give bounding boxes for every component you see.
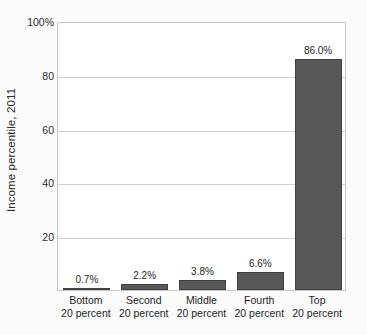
x-axis-label: Bottom20 percent: [57, 294, 115, 320]
x-axis-label: Second20 percent: [115, 294, 173, 320]
x-axis-label-line1: Middle: [186, 294, 217, 306]
y-tick-label-20: 20: [20, 232, 54, 243]
bar-group: 86.0%: [295, 59, 342, 290]
y-tick-label-100: 100%: [20, 17, 54, 28]
x-axis-label-line2: 20 percent: [230, 307, 288, 320]
x-axis-label-line1: Fourth: [244, 294, 274, 306]
x-axis-label: Fourth20 percent: [230, 294, 288, 320]
y-axis-tick-labels: 20406080100%: [18, 0, 54, 335]
x-axis-label-line2: 20 percent: [288, 307, 346, 320]
x-axis-label-line2: 20 percent: [173, 307, 231, 320]
y-tick-label-40: 40: [20, 178, 54, 189]
bar-value-label: 86.0%: [283, 46, 354, 56]
bar-group: 6.6%: [237, 272, 284, 290]
bar-series: 0.7%2.2%3.8%6.6%86.0%: [58, 23, 345, 290]
bar-chart-figure: Income percentile, 2011 20406080100% 0.7…: [0, 0, 367, 335]
x-axis-label: Top20 percent: [288, 294, 346, 320]
x-axis-label: Middle20 percent: [173, 294, 231, 320]
y-tick-label-80: 80: [20, 71, 54, 82]
bar[interactable]: [237, 272, 284, 290]
y-tick-label-60: 60: [20, 124, 54, 135]
x-axis-category-labels: Bottom20 percentSecond20 percentMiddle20…: [57, 294, 346, 334]
bar[interactable]: [179, 280, 226, 290]
bar[interactable]: [121, 284, 168, 290]
x-axis-label-line2: 20 percent: [57, 307, 115, 320]
x-axis-label-line1: Top: [309, 294, 326, 306]
bar[interactable]: [63, 288, 110, 290]
plot-area: 0.7%2.2%3.8%6.6%86.0%: [57, 22, 346, 291]
bar[interactable]: [295, 59, 342, 290]
bar-group: 2.2%: [121, 284, 168, 290]
x-axis-label-line1: Bottom: [69, 294, 102, 306]
bar-group: 3.8%: [179, 280, 226, 290]
x-axis-label-line1: Second: [126, 294, 162, 306]
bar-group: 0.7%: [63, 288, 110, 290]
x-axis-label-line2: 20 percent: [115, 307, 173, 320]
bar-value-label: 6.6%: [225, 259, 296, 269]
y-axis-title-text: Income percentile, 2011: [5, 88, 17, 212]
